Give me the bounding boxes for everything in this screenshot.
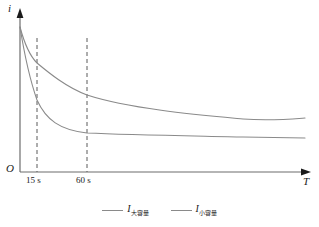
origin-label: O xyxy=(6,163,14,174)
y-axis-label: i xyxy=(8,3,11,14)
legend-item-large-capacity: I大容量 xyxy=(102,204,148,216)
legend-subscript-large-capacity: 大容量 xyxy=(131,209,149,216)
y-axis-arrowhead xyxy=(17,8,24,18)
legend-label-large-capacity: I大容量 xyxy=(127,204,148,216)
discharge-curve-chart: i T O 15 s 60 s I大容量 I小容量 xyxy=(0,0,319,227)
curve-large-capacity xyxy=(20,27,305,120)
legend-line-swatch-large-capacity xyxy=(102,210,123,211)
legend-label-small-capacity: I小容量 xyxy=(196,204,217,216)
chart-legend: I大容量 I小容量 xyxy=(0,204,319,216)
x-tick-label-60s: 60 s xyxy=(76,176,91,185)
legend-item-small-capacity: I小容量 xyxy=(171,204,217,216)
legend-subscript-small-capacity: 小容量 xyxy=(199,209,217,216)
x-axis-label: T xyxy=(303,176,309,187)
plot-area xyxy=(0,0,319,227)
legend-line-swatch-small-capacity xyxy=(171,210,192,211)
x-tick-label-15s: 15 s xyxy=(26,176,41,185)
